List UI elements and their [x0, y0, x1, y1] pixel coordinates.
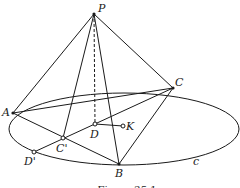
label-C-prime: C' [56, 142, 67, 155]
label-K: K [125, 120, 135, 133]
ellipse-c [9, 93, 239, 165]
label-B: B [114, 167, 123, 180]
label-D-prime: D' [23, 155, 36, 168]
label-A: A [1, 106, 10, 119]
label-P: P [97, 2, 106, 15]
edge-PB [94, 14, 119, 164]
point-B [117, 162, 120, 165]
geometry-figure: P C A D K C' D' B c Figure 25.1 [0, 0, 240, 188]
segment-DK [95, 124, 123, 126]
edge-PC [94, 14, 173, 88]
point-K [121, 124, 125, 128]
point-D [93, 122, 97, 126]
point-A [11, 111, 14, 114]
label-D: D [89, 128, 99, 141]
label-C: C [175, 76, 184, 89]
point-P [92, 12, 95, 15]
edge-AC [13, 88, 173, 113]
point-C-prime [61, 136, 65, 140]
altitude-PD [94, 14, 95, 124]
figure-caption: Figure 25.1 [96, 184, 156, 188]
point-D-prime [32, 150, 36, 154]
line-CD-prime [34, 88, 173, 152]
label-c: c [193, 155, 199, 168]
